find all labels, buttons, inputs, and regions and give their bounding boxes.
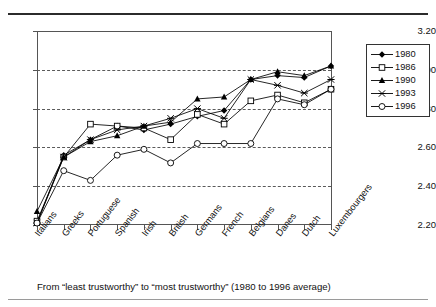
data-point-cross-x	[327, 76, 334, 82]
data-point-cross-x	[301, 90, 308, 96]
data-point-open-circle	[301, 102, 307, 108]
data-point-open-circle	[328, 86, 334, 92]
legend-marker-open-square	[369, 61, 395, 74]
data-point-filled-diamond	[379, 51, 385, 57]
series-line	[37, 89, 331, 221]
legend-label: 1986	[395, 61, 416, 74]
series-1996	[34, 86, 334, 226]
data-point-open-circle	[248, 141, 254, 147]
data-point-open-square	[379, 65, 385, 71]
chart-caption: From “least trustworthy” to “most trustw…	[37, 281, 417, 292]
data-point-filled-triangle	[221, 94, 227, 100]
data-point-open-circle	[61, 168, 67, 174]
data-point-cross-x	[378, 90, 385, 96]
legend-marker-cross-x	[369, 87, 395, 100]
legend-label: 1996	[395, 100, 416, 113]
data-point-open-circle	[221, 141, 227, 147]
data-point-open-circle	[275, 96, 281, 102]
data-point-open-circle	[379, 104, 385, 110]
data-point-cross-x	[194, 105, 201, 111]
series-1986	[34, 86, 334, 224]
data-point-open-square	[168, 137, 174, 143]
data-point-cross-x	[220, 115, 227, 121]
data-point-filled-triangle	[34, 208, 40, 214]
legend-marker-open-circle	[369, 100, 395, 113]
data-point-filled-triangle	[274, 68, 280, 74]
legend-label: 1993	[395, 87, 416, 100]
legend-item-1980[interactable]: 1980	[369, 48, 427, 61]
series-line	[37, 89, 331, 223]
data-point-open-square	[248, 98, 254, 104]
legend-marker-filled-diamond	[369, 48, 395, 61]
legend-item-1990[interactable]: 1990	[369, 74, 427, 87]
data-point-open-square	[195, 112, 201, 118]
data-point-cross-x	[274, 82, 281, 88]
data-point-open-circle	[141, 146, 147, 152]
data-point-open-circle	[168, 160, 174, 166]
data-point-open-circle	[34, 220, 40, 226]
legend-label: 1980	[395, 48, 416, 61]
series-1980	[34, 63, 334, 227]
legend-marker-filled-triangle	[369, 74, 395, 87]
legend-item-1993[interactable]: 1993	[369, 87, 427, 100]
legend-item-1996[interactable]: 1996	[369, 100, 427, 113]
legend-item-1986[interactable]: 1986	[369, 61, 427, 74]
chart-page: 3.203.002.802.602.402.20 ItaliansGreeksP…	[0, 0, 436, 307]
bottom-divider	[8, 299, 428, 300]
data-point-open-square	[221, 121, 227, 127]
data-point-open-square	[88, 121, 94, 127]
chart-legend: 19801986199019931996	[366, 44, 430, 117]
data-point-open-circle	[87, 177, 93, 183]
data-point-open-circle	[194, 141, 200, 147]
data-point-open-circle	[114, 152, 120, 158]
series-line	[37, 66, 331, 223]
legend-label: 1990	[395, 74, 416, 87]
